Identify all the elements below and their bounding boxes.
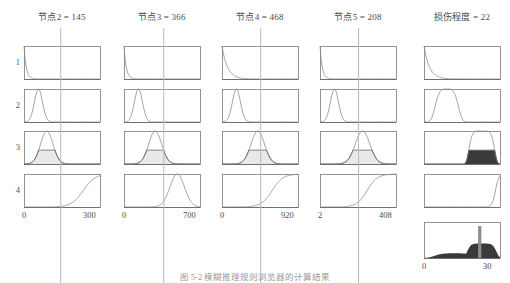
panel-rule2-damage-degree xyxy=(424,89,501,123)
rule-row-label-3: 3 xyxy=(8,142,20,152)
panel-rule3-node3 xyxy=(124,131,201,164)
column-header-node2: 节点2 = 145 xyxy=(4,10,120,23)
column-header-node5: 节点5 = 208 xyxy=(300,10,416,23)
defuzzified-output-marker xyxy=(478,226,481,258)
panel-rule1-damage-degree xyxy=(424,46,501,80)
panel-rule1-node3 xyxy=(124,46,201,80)
axis-min-label-node3: 0 xyxy=(122,210,126,220)
column-header-damage-degree: 损伤程度 = 22 xyxy=(404,10,510,23)
panel-rule2-node3 xyxy=(124,89,201,122)
rule-row-label-4: 4 xyxy=(8,185,20,195)
panel-rule2-node2 xyxy=(24,89,101,122)
panel-rule3-node2 xyxy=(24,131,101,165)
axis-min-label-node5: 2 xyxy=(318,210,322,220)
panel-rule4-node2 xyxy=(24,175,101,208)
panel-rule4-damage-degree xyxy=(424,175,501,208)
axis-max-label-node5: 408 xyxy=(379,210,392,220)
aggregated-output-panel xyxy=(424,223,501,259)
axis-max-label-node4: 920 xyxy=(281,210,294,220)
panel-rule4-node3 xyxy=(124,174,201,208)
axis-max-label-node3: 700 xyxy=(183,210,196,220)
rule-matrix-canvas xyxy=(0,0,510,283)
rule-row-label-2: 2 xyxy=(8,100,20,110)
axis-max-label-node2: 300 xyxy=(83,210,96,220)
panel-rule1-node2 xyxy=(24,46,101,80)
axis-min-label-node4: 0 xyxy=(220,210,224,220)
fuzzy-rule-viewer: 节点2 = 1450300节点3 = 3660700节点4 = 4680920节… xyxy=(0,0,510,283)
figure-caption: 图 5-2 模糊推理规则浏览器的计算结果 xyxy=(0,270,510,283)
panel-rule3-damage-degree xyxy=(424,131,501,165)
axis-min-label-node2: 0 xyxy=(22,210,26,220)
rule-row-label-1: 1 xyxy=(8,57,20,67)
